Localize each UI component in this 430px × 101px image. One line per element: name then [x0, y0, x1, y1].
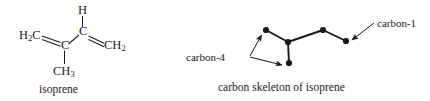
atom-label-ch3: CH3 — [53, 65, 75, 78]
skeleton-edge-cj-c4b — [288, 42, 289, 63]
annotation-carbon-4: carbon-4 — [186, 52, 225, 63]
skeleton-vertex-c4a — [263, 27, 269, 33]
skeleton-edge-cj-c2 — [288, 30, 323, 42]
isoprene-caption: isoprene — [39, 84, 78, 96]
skeleton-edge-c4a-cj — [266, 30, 288, 42]
annotation-carbon-1: carbon-1 — [377, 18, 416, 29]
bond-h2c-c-upper — [42, 36, 61, 43]
chemistry-figure: H H2C C C CH3 CH2 isoprene — [0, 0, 430, 101]
skeleton-vertex-c4b — [286, 60, 292, 66]
bond-h2c-c-lower — [42, 40, 61, 47]
bond-c-ch2-lower — [89, 40, 105, 47]
atom-label-ch2: CH2 — [104, 39, 126, 52]
skeleton-vertex-c1 — [343, 38, 349, 44]
bond-c-ch2-upper — [89, 36, 105, 43]
bond-c-to-c — [69, 35, 80, 44]
atom-label-h2c: H2C — [19, 29, 41, 42]
arrow-carbon-4-upper — [250, 35, 262, 56]
skeleton-vertex-c2 — [320, 27, 326, 33]
carbon-skeleton-caption: carbon skeleton of isoprene — [218, 82, 345, 94]
arrow-carbon-1 — [352, 23, 374, 40]
arrow-carbon-4-lower — [250, 57, 282, 65]
atom-label-c-vinyl: C — [79, 25, 87, 38]
skeleton-vertex-cj — [285, 39, 291, 45]
atom-label-c-center: C — [61, 39, 69, 52]
atom-label-h-top: H — [78, 4, 87, 17]
skeleton-edge-c2-c1 — [323, 30, 346, 41]
